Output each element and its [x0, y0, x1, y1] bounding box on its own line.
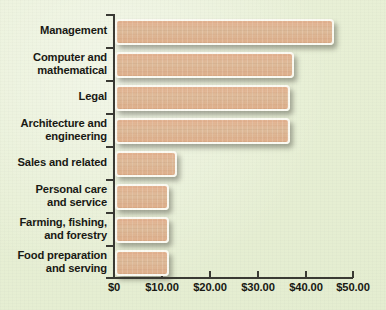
category-label-line: mathematical	[0, 64, 107, 77]
y-axis-tick	[106, 212, 114, 214]
x-axis-line	[113, 277, 353, 279]
x-axis-tick	[257, 271, 259, 278]
bar-sales-and-related	[115, 151, 177, 177]
x-axis-tick-label-50: $50.00	[336, 281, 370, 293]
y-axis-tick	[106, 113, 114, 115]
category-label-food-preparation-and-serving: Food preparation and serving	[0, 249, 107, 274]
category-label-line: Management	[40, 24, 107, 36]
x-axis-tick-label-30: $30.00	[241, 281, 275, 293]
category-label-line: and forestry	[0, 229, 107, 242]
category-label-line: Architecture and	[21, 117, 108, 129]
y-axis-tick	[106, 80, 114, 82]
bar-farming-fishing-and-forestry	[115, 217, 169, 243]
y-axis-tick	[106, 14, 114, 16]
category-label-farming-fishing-and-forestry: Farming, fishing, and forestry	[0, 216, 107, 241]
x-axis-tick-label-20: $20.00	[193, 281, 227, 293]
category-label-architecture-and-engineering: Architecture and engineering	[0, 117, 107, 142]
y-axis-tick	[106, 146, 114, 148]
category-label-personal-care-and-service: Personal care and service	[0, 183, 107, 208]
x-axis-tick	[209, 271, 211, 278]
bar-personal-care-and-service	[115, 184, 169, 210]
plot-area: Management Computer and mathematical Leg…	[0, 0, 386, 310]
x-axis-tick-label-0: $0	[108, 281, 120, 293]
category-label-line: Personal care	[36, 183, 107, 195]
bar-management	[115, 19, 334, 45]
y-axis-tick	[106, 179, 114, 181]
category-label-line: engineering	[0, 130, 107, 143]
category-label-legal: Legal	[0, 90, 107, 103]
bar-computer-and-mathematical	[115, 52, 294, 78]
bar-legal	[115, 85, 290, 111]
category-label-line: Sales and related	[18, 156, 107, 168]
x-axis-tick	[305, 271, 307, 278]
y-axis-tick	[106, 47, 114, 49]
category-label-sales-and-related: Sales and related	[0, 156, 107, 169]
category-label-line: Legal	[79, 90, 107, 102]
bar-chart: Management Computer and mathematical Leg…	[0, 0, 386, 310]
category-label-line: Farming, fishing,	[19, 216, 107, 228]
x-axis-tick-label-40: $40.00	[289, 281, 323, 293]
category-label-line: Computer and	[33, 51, 107, 63]
bar-food-preparation-and-serving	[115, 250, 169, 276]
y-axis-tick	[106, 245, 114, 247]
category-label-line: and service	[0, 196, 107, 209]
bar-architecture-and-engineering	[115, 118, 290, 144]
x-axis-tick	[352, 271, 354, 278]
category-label-management: Management	[0, 24, 107, 37]
category-label-computer-and-mathematical: Computer and mathematical	[0, 51, 107, 76]
category-label-line: and serving	[0, 262, 107, 275]
category-label-line: Food preparation	[17, 249, 107, 261]
x-axis-tick-label-10: $10.00	[145, 281, 179, 293]
